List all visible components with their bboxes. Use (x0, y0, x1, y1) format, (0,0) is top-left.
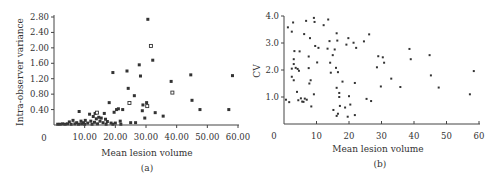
panel-a-x-ticks: 10.0020.0030.0040.0050.0060.00 (72, 125, 250, 142)
panel-b-data-point (363, 40, 365, 42)
panel-b-data-point (337, 113, 339, 115)
panel-b-data-point (329, 62, 331, 64)
panel-b-x-tick-label: 20 (344, 131, 355, 141)
panel-a-data-point (151, 59, 154, 62)
panel-a-data-point (127, 87, 130, 90)
panel-b-data-point (429, 54, 431, 56)
panel-b-data-point (298, 70, 300, 72)
panel-a-data-point (113, 111, 116, 114)
panel-b-data-point (383, 62, 385, 64)
panel-a-y-tick-label: 0.80 (30, 89, 49, 99)
panel-b-data-point (344, 107, 346, 109)
panel-a-data-point (111, 71, 114, 74)
panel-b-data-point (469, 93, 471, 95)
panel-a-data-point (154, 111, 157, 114)
panel-a-y-tick-label: 0.40 (30, 105, 49, 115)
panel-b-data-point (310, 79, 312, 81)
panel-b-y-tick-label: 2.0 (265, 65, 279, 75)
panel-a-data-point (198, 108, 201, 111)
panel-b-data-point (377, 55, 379, 57)
panel-b-data-point (293, 63, 295, 65)
panel-b-data-point (308, 67, 310, 69)
panel-b-data-point (309, 37, 311, 39)
panel-a-data-point (138, 63, 141, 66)
panel-b-origin-label: 0 (271, 131, 276, 141)
panel-b-data-point (345, 44, 347, 46)
panel-a-points (56, 18, 234, 126)
panel-a-data-point (145, 101, 148, 104)
panel-b-data-point (314, 21, 316, 23)
panel-b-y-axis-title: CV (252, 64, 262, 78)
panel-b-points (285, 17, 475, 118)
panel-b-data-point (410, 58, 412, 60)
panel-a-data-point (95, 117, 98, 120)
panel-b-data-point (332, 109, 334, 111)
panel-a-x-tick-label: 20.00 (103, 132, 127, 142)
panel-a-data-point (106, 120, 109, 123)
panel-b-data-point (347, 37, 349, 39)
panel-b-data-point (288, 101, 290, 103)
panel-a-data-point (89, 120, 92, 123)
panel-a-data-point (146, 105, 149, 108)
panel-b-data-point (295, 67, 297, 69)
panel-b-data-point (338, 96, 340, 98)
panel-b-data-point (317, 47, 319, 49)
panel-b-x-axis-title: Mean lesion volume (332, 144, 423, 154)
panel-b-data-point (380, 85, 382, 87)
panel-b-data-point (338, 92, 340, 94)
panel-b-data-point (296, 91, 298, 93)
panel-b-data-point (293, 79, 295, 81)
panel-b-data-point (354, 82, 356, 84)
panel-b-data-point (308, 56, 310, 58)
panel-a-data-point (141, 109, 144, 112)
panel-b-data-point (293, 58, 295, 60)
panel-b-data-point (366, 98, 368, 100)
panel-a-data-point (191, 99, 194, 102)
panel-a-x-tick-label: 40.00 (164, 132, 188, 142)
panel-b-x-tick-label: 40 (409, 131, 420, 141)
panel-a-data-point (162, 115, 165, 118)
panel-b-data-point (287, 26, 289, 28)
panel-b-y-tick-label: 3.0 (265, 38, 279, 48)
panel-b-x-tick-label: 10 (311, 131, 322, 141)
panel-b-data-point (327, 48, 329, 50)
panel-a-data-point (227, 108, 230, 111)
panel-b-data-point (303, 33, 305, 35)
panel-b-data-point (349, 104, 351, 106)
panel-b-data-point (430, 74, 432, 76)
panel-a-data-point (99, 120, 102, 123)
panel-b-data-point (285, 99, 287, 101)
panel-a-y-tick-label: 2.00 (30, 43, 49, 53)
panel-a-data-point (108, 101, 111, 104)
panel-b-y-tick-label: 4.0 (265, 11, 279, 21)
panel-b-data-point (438, 87, 440, 89)
panel-b-data-point (314, 45, 316, 47)
panel-b-data-point (291, 68, 293, 70)
panel-a-data-point (141, 103, 144, 106)
panel-a-data-point (129, 121, 132, 124)
panel-a-x-tick-label: 10.00 (72, 132, 96, 142)
panel-b-data-point (327, 19, 329, 21)
panel-b-data-point (334, 48, 336, 50)
panel-b-data-point (308, 83, 310, 85)
panel-a-x-tick-label: 30.00 (134, 132, 158, 142)
panel-b-data-point (339, 105, 341, 107)
panel-b-data-point (305, 20, 307, 22)
panel-a-scatter-plot: 10.0020.0030.0040.0050.0060.00 0.400.801… (15, 12, 250, 173)
panel-a-y-tick-label: 2.40 (30, 27, 49, 37)
panel-b-data-point (304, 98, 306, 100)
panel-b-data-point (300, 97, 302, 99)
panel-b-data-point (336, 32, 338, 34)
panel-b-data-point (335, 67, 337, 69)
panel-b-data-point (370, 100, 372, 102)
panel-a-label: (a) (141, 163, 153, 173)
panel-a-y-axis-title: Intra-observer variance (15, 18, 25, 126)
panel-b-data-point (342, 81, 344, 83)
panel-a-y-tick-label: 2.80 (30, 12, 49, 22)
panel-b-data-point (399, 86, 401, 88)
panel-b-data-point (336, 87, 338, 89)
panel-a-data-point (86, 122, 89, 125)
panel-a-data-point (100, 117, 103, 120)
panel-b-data-point (408, 48, 410, 50)
panel-a-data-point (171, 91, 174, 94)
